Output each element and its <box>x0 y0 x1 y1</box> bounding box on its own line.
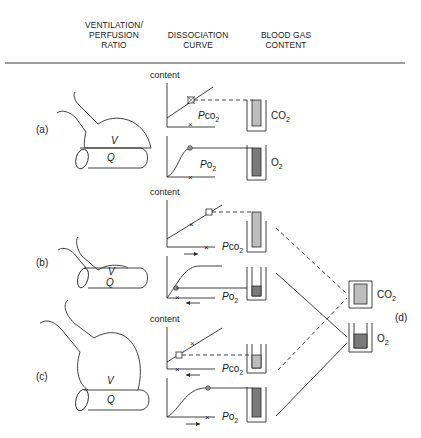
connector-line <box>276 273 347 337</box>
panel-c: (c) V Q content × × Pco2 <box>36 300 266 426</box>
connector-line <box>276 343 347 416</box>
o2-dissociation-curve: × Po2 <box>167 378 253 426</box>
x-mark: × <box>205 413 210 422</box>
co2-dissociation-curve: × × Pco2 <box>167 327 252 377</box>
connector-line <box>278 298 347 370</box>
o2-dissociation-curve: × Po2 <box>167 136 253 182</box>
po2-label: Po2 <box>222 411 238 424</box>
panel-label-c: (c) <box>36 371 48 382</box>
panel-label-b: (b) <box>36 257 48 268</box>
x-mark: × <box>188 173 193 182</box>
connector-line <box>276 228 347 294</box>
ventilation-label: V <box>111 135 119 146</box>
co2-content-beaker <box>247 212 266 252</box>
axis-label-content: content <box>150 187 180 197</box>
x-mark: × <box>175 365 180 374</box>
arrow-left-icon <box>186 373 190 377</box>
x-mark: × <box>189 220 194 229</box>
arrow-left-icon <box>186 301 190 305</box>
perfusion-label: Q <box>106 277 114 288</box>
axis-label-content: content <box>150 314 180 324</box>
panel-label-d: (d) <box>395 312 407 323</box>
o2-content-beaker: O2 <box>247 145 283 180</box>
panel-d: CO2 (d) O2 <box>276 228 407 416</box>
x-mark: × <box>190 339 195 348</box>
o2-content-beaker <box>247 387 266 422</box>
co2-dissociation-curve: × Pco2 <box>167 83 253 129</box>
arrow-right-icon <box>194 252 198 256</box>
arrow-right-icon <box>196 422 200 426</box>
alveolus-icon: V Q <box>58 237 148 289</box>
pco2-label: Pco2 <box>222 363 243 376</box>
axis-label-content: content <box>150 70 180 80</box>
x-mark: × <box>188 120 193 129</box>
perfusion-label: Q <box>107 152 115 163</box>
mixed-co2-beaker: CO2 <box>349 281 396 308</box>
o2-content-beaker <box>247 267 266 300</box>
co2-dissociation-curve: × × Pco2 <box>167 200 252 256</box>
mixed-o2-beaker: O2 <box>349 323 389 352</box>
vq-diagram: .ln { stroke:#2a2a2a; stroke-width:0.9; … <box>0 0 421 438</box>
o2-label: O2 <box>271 157 283 170</box>
panel-b: (b) V Q content × × Pco2 <box>36 187 266 305</box>
co2-content-beaker <box>247 344 266 373</box>
po2-label: Po2 <box>200 159 216 172</box>
pco2-label: Pco2 <box>222 241 243 254</box>
co2-label: CO2 <box>271 110 290 123</box>
x-mark: × <box>175 293 180 302</box>
x-mark: × <box>204 243 209 252</box>
co2-content-beaker: CO2 <box>247 100 290 131</box>
panel-a: (a) V Q content × Pco2 <box>36 70 290 182</box>
alveolus-icon: V Q <box>57 92 151 170</box>
alveolus-icon: V Q <box>40 300 149 412</box>
o2-label: O2 <box>377 333 389 346</box>
co2-label: CO2 <box>377 289 396 302</box>
o2-dissociation-curve: × Po2 <box>167 256 247 305</box>
po2-label: Po2 <box>222 291 238 304</box>
panel-label-a: (a) <box>36 124 48 135</box>
perfusion-label: Q <box>107 394 115 405</box>
ventilation-label: V <box>107 375 115 386</box>
pco2-label: Pco2 <box>198 110 219 123</box>
